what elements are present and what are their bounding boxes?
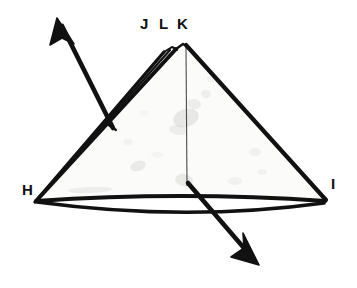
vertex-label-J: J — [140, 16, 148, 31]
paper-smudge — [201, 90, 211, 98]
paper-smudge — [249, 148, 261, 156]
vertex-label-H: H — [22, 182, 33, 197]
edge-back-arc — [37, 202, 324, 212]
edge-H-to-I-base — [36, 196, 325, 201]
vertex-label-L: L — [159, 16, 168, 31]
arrow-head-upper-left — [50, 18, 74, 45]
paper-folding-figure: J L K H I — [0, 0, 357, 288]
fold-open-arrow-upper-left — [50, 18, 113, 128]
paper-smudge — [140, 110, 148, 116]
paper-smudge — [151, 152, 163, 158]
paper-smudge — [123, 139, 133, 145]
paper-smudge — [257, 169, 267, 175]
vertex-label-I: I — [331, 176, 335, 191]
paper-smudge — [228, 177, 242, 185]
figure-canvas — [0, 0, 357, 288]
vertex-label-K: K — [177, 16, 188, 31]
